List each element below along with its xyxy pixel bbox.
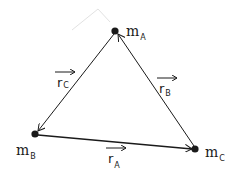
vector-rc-label: rC xyxy=(57,74,69,90)
vector-rb-label: rB xyxy=(159,80,171,96)
mass-a-symbol: m xyxy=(126,23,139,39)
mass-c-symbol: m xyxy=(205,144,218,160)
vector-ra-label: rA xyxy=(108,150,120,166)
vector-rc-subscript: C xyxy=(63,81,69,90)
mass-b-dot xyxy=(31,130,38,137)
mass-b-label: mB xyxy=(16,142,36,158)
vector-rb-arrow xyxy=(118,34,194,146)
mass-c-label: mC xyxy=(205,144,225,160)
vector-rb-symbol: r xyxy=(159,81,164,96)
vector-rc-symbol: r xyxy=(57,75,62,90)
vector-ra-arrow xyxy=(38,135,192,149)
mass-b-symbol: m xyxy=(16,142,29,158)
mass-c-dot xyxy=(191,145,198,152)
vector-ra-symbol: r xyxy=(108,151,113,166)
vector-ra-subscript: A xyxy=(114,161,119,170)
mass-a-subscript: A xyxy=(140,33,145,42)
faint-guide-lines xyxy=(72,9,110,30)
mass-a-label: mA xyxy=(126,23,146,39)
vector-rc-arrow xyxy=(38,34,114,131)
mass-a-dot xyxy=(111,27,118,34)
vector-rb-subscript: B xyxy=(165,89,171,98)
mass-c-subscript: C xyxy=(219,154,225,163)
mass-b-subscript: B xyxy=(30,152,36,161)
triangle-vector-diagram: mA mB mC rC rB rA xyxy=(0,0,244,176)
